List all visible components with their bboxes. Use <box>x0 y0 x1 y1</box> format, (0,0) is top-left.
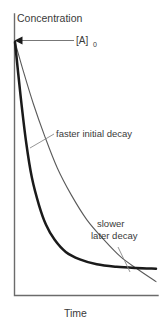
chart-axes <box>15 14 159 296</box>
kinetics-decay-chart: Concentration [A] 0 faster initial decay… <box>0 0 161 325</box>
initial-concentration-subscript: 0 <box>93 41 97 48</box>
faster-decay-leader <box>30 134 54 148</box>
slower-decay-curve <box>15 42 156 282</box>
y-axis-label: Concentration <box>17 12 83 24</box>
faster-decay-label: faster initial decay <box>56 128 132 139</box>
slower-decay-label-line2: later decay <box>91 230 138 241</box>
x-axis-label: Time <box>64 307 87 319</box>
slower-decay-label-line1: slower <box>97 218 124 229</box>
initial-concentration-annotation: [A] 0 <box>15 35 98 48</box>
initial-concentration-label: [A] <box>76 35 88 46</box>
chart-canvas: Concentration [A] 0 faster initial decay… <box>0 0 161 325</box>
